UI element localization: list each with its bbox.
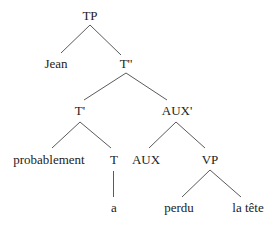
edge-tbar-probablement (52, 122, 80, 148)
edge-tbar-t (80, 122, 111, 148)
node-la-tete: la tête (232, 201, 263, 215)
node-perdu: perdu (164, 201, 194, 215)
node-aux: AUX (132, 153, 160, 167)
edge-tp-jean (61, 25, 90, 53)
edge-tbarbar-auxbar (126, 73, 167, 100)
node-t-bar-bar: T'' (120, 57, 133, 71)
edge-tp-tbarbar (90, 25, 121, 55)
edge-vp-latete (210, 170, 241, 197)
edge-vp-perdu (182, 170, 210, 197)
tree-edges (0, 0, 278, 227)
node-jean: Jean (44, 57, 67, 71)
node-aux-bar: AUX' (162, 104, 193, 118)
node-probablement: probablement (13, 153, 84, 167)
syntax-tree-diagram: TP Jean T'' T' AUX' probablement T AUX V… (0, 0, 278, 227)
edge-auxbar-vp (176, 122, 205, 148)
edge-auxbar-aux (149, 122, 176, 148)
node-a: a (111, 201, 117, 215)
node-t: T (110, 153, 118, 167)
node-tp: TP (82, 9, 97, 23)
edge-tbarbar-tbar (84, 73, 126, 100)
node-vp: VP (202, 153, 219, 167)
node-t-bar: T' (75, 104, 85, 118)
